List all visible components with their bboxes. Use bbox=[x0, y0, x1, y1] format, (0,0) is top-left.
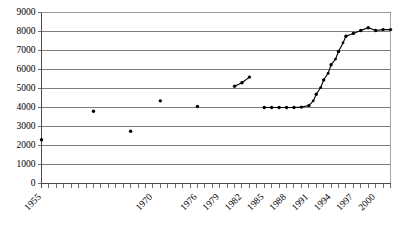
x-tick-label-1997: 1997 bbox=[334, 192, 355, 213]
y-tick-label-1000: 1000 bbox=[17, 159, 36, 169]
data-point bbox=[270, 106, 273, 109]
data-point bbox=[277, 106, 280, 109]
line-chart: 0100020003000400050006000700080009000 19… bbox=[0, 0, 401, 234]
chart-container: 0100020003000400050006000700080009000 19… bbox=[0, 0, 401, 234]
data-point bbox=[334, 58, 337, 61]
data-series bbox=[40, 26, 392, 142]
data-point bbox=[329, 63, 332, 66]
data-point bbox=[389, 28, 392, 31]
data-point bbox=[374, 29, 377, 32]
data-point bbox=[159, 99, 162, 102]
data-point bbox=[319, 86, 322, 89]
y-tick-label-0: 0 bbox=[31, 178, 36, 188]
plot-frame bbox=[42, 13, 391, 188]
data-point bbox=[367, 26, 370, 29]
data-point bbox=[312, 99, 315, 102]
y-axis-tick-labels: 0100020003000400050006000700080009000 bbox=[17, 7, 42, 188]
x-tick-label-1988: 1988 bbox=[267, 192, 288, 213]
y-tick-label-7000: 7000 bbox=[17, 45, 36, 55]
data-point bbox=[359, 29, 362, 32]
y-tick-label-5000: 5000 bbox=[17, 83, 36, 93]
y-tick-label-8000: 8000 bbox=[17, 26, 36, 36]
y-tick-label-4000: 4000 bbox=[17, 102, 36, 112]
data-point bbox=[263, 106, 266, 109]
data-point bbox=[300, 105, 303, 108]
data-point bbox=[337, 50, 340, 53]
data-point bbox=[307, 104, 310, 107]
x-tick-label-1994: 1994 bbox=[312, 192, 333, 213]
y-tick-label-6000: 6000 bbox=[17, 64, 36, 74]
data-point bbox=[240, 81, 243, 84]
y-tick-label-2000: 2000 bbox=[17, 140, 36, 150]
x-tick-label-1982: 1982 bbox=[223, 192, 244, 213]
series-line-main-series bbox=[264, 28, 390, 108]
data-point bbox=[381, 28, 384, 31]
series-segment-early-eighties-series bbox=[233, 75, 251, 88]
x-tick-label-1955: 1955 bbox=[22, 192, 43, 213]
data-point bbox=[92, 110, 95, 113]
x-tick-label-1985: 1985 bbox=[245, 192, 266, 213]
x-tick-label-1976: 1976 bbox=[178, 192, 199, 213]
y-tick-label-9000: 9000 bbox=[17, 7, 36, 17]
x-tick-label-1979: 1979 bbox=[201, 192, 222, 213]
data-point bbox=[315, 93, 318, 96]
data-point bbox=[344, 35, 347, 38]
data-point bbox=[292, 106, 295, 109]
data-point bbox=[285, 106, 288, 109]
gridlines bbox=[42, 13, 391, 184]
data-point bbox=[352, 32, 355, 35]
series-segment-isolated-early-observations bbox=[40, 99, 199, 141]
y-tick-label-3000: 3000 bbox=[17, 121, 36, 131]
data-point bbox=[248, 75, 251, 78]
x-tick-label-1991: 1991 bbox=[290, 192, 311, 213]
data-point bbox=[40, 138, 43, 141]
x-axis-tick-labels: 1955197019761979198219851988199119941997… bbox=[22, 192, 377, 213]
data-point bbox=[233, 85, 236, 88]
data-point bbox=[129, 130, 132, 133]
series-segment-main-series bbox=[263, 26, 393, 109]
x-tick-label-2000: 2000 bbox=[357, 192, 378, 213]
x-tick-label-1970: 1970 bbox=[134, 192, 155, 213]
x-axis-tick-marks bbox=[42, 184, 391, 188]
data-point bbox=[342, 42, 345, 45]
data-point bbox=[322, 78, 325, 81]
data-point bbox=[327, 72, 330, 75]
data-point bbox=[196, 105, 199, 108]
